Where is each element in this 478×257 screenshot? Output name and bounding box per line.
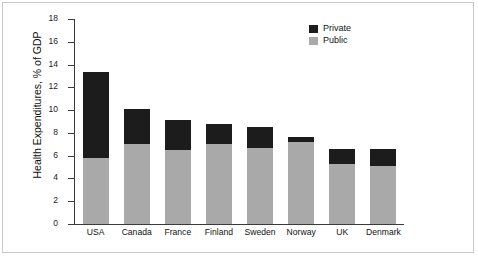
legend-label: Public bbox=[323, 36, 348, 45]
bar-segment-private[interactable] bbox=[206, 124, 232, 144]
bar-segment-private[interactable] bbox=[370, 149, 396, 166]
bar-canada[interactable] bbox=[124, 109, 150, 224]
y-tick-mark bbox=[68, 201, 74, 202]
y-tick-mark bbox=[68, 19, 74, 20]
y-tick-12: 12 bbox=[3, 87, 66, 88]
bar-segment-private[interactable] bbox=[165, 120, 191, 150]
y-tick-mark bbox=[68, 178, 74, 179]
x-axis-line bbox=[74, 224, 404, 225]
y-tick-label: 8 bbox=[0, 128, 58, 137]
y-tick-label: 6 bbox=[0, 151, 58, 160]
y-tick-6: 6 bbox=[3, 156, 66, 157]
y-tick-0: 0 bbox=[3, 224, 66, 225]
bar-segment-private[interactable] bbox=[124, 109, 150, 144]
bar-segment-public[interactable] bbox=[124, 144, 150, 224]
bar-segment-private[interactable] bbox=[288, 137, 314, 142]
bar-segment-public[interactable] bbox=[165, 150, 191, 224]
bar-norway[interactable] bbox=[288, 137, 314, 224]
bar-segment-public[interactable] bbox=[288, 142, 314, 224]
y-tick-2: 2 bbox=[3, 201, 66, 202]
legend-item-private[interactable]: Private bbox=[309, 24, 351, 33]
y-tick-mark bbox=[68, 87, 74, 88]
y-tick-label: 16 bbox=[0, 37, 58, 46]
y-tick-14: 14 bbox=[3, 65, 66, 66]
y-tick-4: 4 bbox=[3, 178, 66, 179]
bar-segment-public[interactable] bbox=[206, 144, 232, 224]
y-tick-label: 10 bbox=[0, 105, 58, 114]
y-tick-mark bbox=[68, 156, 74, 157]
y-tick-mark bbox=[68, 224, 74, 225]
chart-legend: PrivatePublic bbox=[309, 24, 351, 48]
y-tick-mark bbox=[68, 42, 74, 43]
y-tick-16: 16 bbox=[3, 42, 66, 43]
legend-label: Private bbox=[323, 24, 351, 33]
y-tick-mark bbox=[68, 65, 74, 66]
bar-segment-public[interactable] bbox=[247, 148, 273, 224]
chart-frame: Health Expenditures, % of GDP 0246810121… bbox=[2, 2, 474, 253]
bar-segment-public[interactable] bbox=[329, 164, 355, 224]
x-label-denmark: Denmark bbox=[353, 227, 413, 237]
y-tick-label: 18 bbox=[0, 14, 58, 23]
y-tick-18: 18 bbox=[3, 19, 66, 20]
bar-finland[interactable] bbox=[206, 124, 232, 224]
y-tick-label: 2 bbox=[0, 196, 58, 205]
y-tick-mark bbox=[68, 110, 74, 111]
bar-segment-private[interactable] bbox=[329, 149, 355, 164]
bar-series-group bbox=[75, 19, 404, 224]
bar-segment-public[interactable] bbox=[83, 158, 109, 224]
y-tick-8: 8 bbox=[3, 133, 66, 134]
y-tick-label: 4 bbox=[0, 173, 58, 182]
y-tick-label: 0 bbox=[0, 219, 58, 228]
y-tick-10: 10 bbox=[3, 110, 66, 111]
bar-segment-private[interactable] bbox=[83, 72, 109, 158]
y-tick-mark bbox=[68, 133, 74, 134]
legend-item-public[interactable]: Public bbox=[309, 36, 351, 45]
legend-swatch-private-icon bbox=[309, 25, 318, 33]
y-tick-label: 12 bbox=[0, 82, 58, 91]
bar-denmark[interactable] bbox=[370, 149, 396, 224]
plot-area: Health Expenditures, % of GDP 0246810121… bbox=[3, 3, 475, 254]
bar-segment-public[interactable] bbox=[370, 166, 396, 224]
bar-uk[interactable] bbox=[329, 149, 355, 224]
y-tick-label: 14 bbox=[0, 60, 58, 69]
bar-sweden[interactable] bbox=[247, 127, 273, 224]
bar-usa[interactable] bbox=[83, 72, 109, 224]
bar-segment-private[interactable] bbox=[247, 127, 273, 148]
legend-swatch-public-icon bbox=[309, 37, 318, 45]
bar-france[interactable] bbox=[165, 120, 191, 224]
